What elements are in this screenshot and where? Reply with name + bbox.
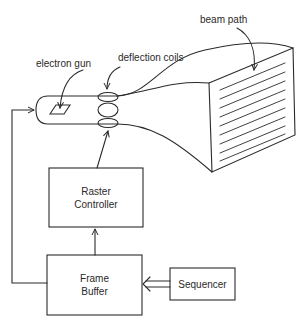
beam-path-leader	[237, 28, 254, 70]
deflection-coils-leader	[107, 67, 120, 89]
sequencer-to-buffer-arrow	[143, 277, 170, 291]
controller-to-coils-arrow	[97, 131, 108, 168]
buffer-to-gun-arrow	[12, 110, 47, 283]
deflection-coils-label: deflection coils	[118, 52, 184, 64]
scan-lines	[220, 63, 285, 161]
frame-buffer-label: Frame Buffer	[47, 272, 142, 298]
crt-screen	[209, 48, 295, 172]
deflection-coils-icon	[98, 93, 118, 128]
raster-controller-label: Raster Controller	[49, 185, 143, 211]
crt-neck	[36, 96, 117, 124]
electron-gun-label: electron gun	[36, 58, 91, 70]
beam-path-label: beam path	[200, 14, 247, 26]
electron-gun-leader	[60, 70, 83, 108]
sequencer-label: Sequencer	[170, 278, 235, 291]
crt-diagram	[0, 0, 304, 325]
